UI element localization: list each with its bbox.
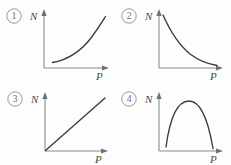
marker-number: 2	[127, 11, 132, 21]
y-axis-arrow-icon	[156, 92, 161, 99]
curve-exponential-decay	[163, 15, 217, 66]
curve-exponential-growth	[53, 17, 106, 63]
marker-number: 3	[13, 94, 18, 104]
y-axis-arrow-icon	[41, 9, 46, 16]
x-axis-label: P	[95, 70, 103, 82]
x-axis-label: P	[209, 153, 217, 165]
graph-panel-1: 1 N P	[0, 0, 115, 82]
curve-inverted-parabola	[166, 101, 213, 149]
option-marker-3: 3	[8, 92, 22, 106]
x-axis-arrow-icon	[216, 65, 223, 70]
y-axis-label: N	[29, 10, 38, 22]
y-axis-label: N	[144, 10, 153, 22]
graph-svg-4: 4 N P	[116, 83, 231, 165]
option-marker-1: 1	[7, 9, 21, 23]
option-marker-2: 2	[122, 9, 136, 23]
graph-svg-2: 2 N P	[116, 0, 231, 82]
y-axis-arrow-icon	[42, 92, 47, 99]
x-axis-arrow-icon	[216, 148, 223, 153]
marker-number: 4	[127, 94, 132, 104]
graph-panel-3: 3 N P	[0, 83, 115, 165]
graph-svg-1: 1 N P	[0, 0, 115, 82]
y-axis-label: N	[144, 93, 153, 105]
graph-panel-4: 4 N P	[116, 83, 231, 165]
x-axis-arrow-icon	[101, 148, 108, 153]
graph-svg-3: 3 N P	[0, 83, 115, 165]
y-axis-arrow-icon	[156, 9, 161, 16]
graph-panel-2: 2 N P	[116, 0, 231, 82]
x-axis-arrow-icon	[102, 65, 109, 70]
option-marker-4: 4	[122, 92, 136, 106]
marker-number: 1	[12, 11, 17, 21]
x-axis-label: P	[94, 153, 102, 165]
figure-container: 1 N P 2 N P	[0, 0, 231, 165]
x-axis-label: P	[209, 70, 217, 82]
curve-linear	[46, 98, 106, 151]
y-axis-label: N	[30, 93, 39, 105]
